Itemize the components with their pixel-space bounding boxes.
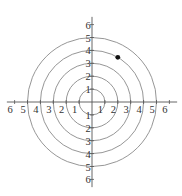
x-tick-label: 1 — [72, 104, 77, 115]
y-tick-label: 6 — [85, 174, 90, 185]
y-tick-label: 5 — [85, 162, 90, 173]
y-tick-label: 1 — [85, 84, 90, 95]
data-point — [115, 55, 120, 60]
y-tick-label: 5 — [85, 33, 90, 44]
x-tick-label: 5 — [20, 104, 25, 115]
x-tick-label: 5 — [149, 104, 154, 115]
x-tick-label: 3 — [46, 104, 51, 115]
y-tick-label: 6 — [85, 20, 90, 31]
x-tick-label: 6 — [7, 104, 12, 115]
y-tick-label: 2 — [85, 123, 90, 134]
x-tick-label: 4 — [33, 104, 39, 115]
polar-chart: 654321123456654321123456 — [0, 0, 182, 196]
y-tick-label: 3 — [85, 136, 90, 147]
x-tick-label: 6 — [162, 104, 167, 115]
x-tick-label: 2 — [111, 104, 116, 115]
y-tick-label: 1 — [85, 110, 90, 121]
x-tick-label: 1 — [98, 104, 103, 115]
x-tick-label: 2 — [59, 104, 64, 115]
x-tick-label: 3 — [124, 104, 129, 115]
y-tick-label: 4 — [85, 149, 91, 160]
y-tick-label: 2 — [85, 71, 90, 82]
x-tick-label: 4 — [136, 104, 142, 115]
y-tick-label: 3 — [85, 58, 90, 69]
y-tick-label: 4 — [85, 45, 91, 56]
data-points — [115, 55, 120, 60]
